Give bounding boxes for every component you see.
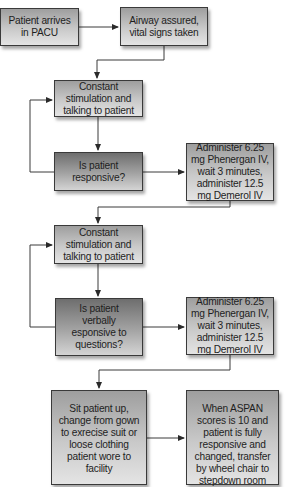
edge-n4-n3-loop — [30, 100, 54, 172]
node-sit-patient-up: Sit patient up, change from gown to exre… — [51, 390, 147, 485]
node-decision-verbally-responsive: Is patient verbally esponsive to questio… — [55, 298, 143, 356]
node-label: Constant stimulation and talking to pati… — [58, 81, 139, 117]
node-constant-stimulation-2: Constant stimulation and talking to pati… — [54, 225, 143, 264]
edge-n2-n3 — [97, 46, 164, 78]
node-label: Constant stimulation and talking to pati… — [58, 227, 139, 263]
node-label: Is patient verbally esponsive to questio… — [59, 303, 139, 351]
node-label: Administer 6.25 mg Phenergan IV, wait 3 … — [190, 296, 270, 356]
edge-n8-n9 — [99, 355, 230, 388]
node-label: Sit patient up, change from gown to exre… — [55, 403, 143, 475]
node-label: When ASPAN scores is 10 and patient is f… — [190, 403, 275, 487]
node-administer-2: Administer 6.25 mg Phenergan IV, wait 3 … — [186, 297, 274, 355]
node-label: Is patient responsive? — [58, 160, 139, 184]
node-aspan-transfer: When ASPAN scores is 10 and patient is f… — [186, 390, 279, 485]
node-constant-stimulation-1: Constant stimulation and talking to pati… — [54, 80, 143, 117]
node-label: Airway assured, vital signs taken — [124, 15, 204, 39]
node-decision-responsive: Is patient responsive? — [54, 152, 143, 191]
node-label: Administer 6.25 mg Phenergan IV, wait 3 … — [190, 142, 270, 202]
edge-n7-n6-loop — [30, 245, 55, 327]
node-airway-assured: Airway assured, vital signs taken — [120, 7, 208, 46]
node-patient-arrives: Patient arrives in PACU — [0, 8, 79, 46]
node-label: Patient arrives in PACU — [4, 15, 75, 39]
edge-n5-n6 — [98, 201, 230, 223]
node-administer-1: Administer 6.25 mg Phenergan IV, wait 3 … — [186, 143, 274, 201]
